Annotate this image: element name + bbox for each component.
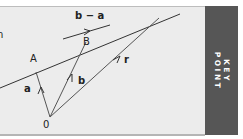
- key-point-strip: KEY POINT: [205, 6, 238, 135]
- label-vector-b: b: [78, 76, 85, 86]
- key-point-label: KEY POINT: [213, 51, 231, 90]
- line-through-a-b: [0, 14, 180, 88]
- label-origin: 0: [43, 120, 49, 130]
- vector-a-arrowhead-icon: [38, 87, 44, 94]
- label-point-b: B: [83, 37, 90, 47]
- vector-r-line: [50, 18, 159, 117]
- cut-off-text: n: [0, 30, 3, 40]
- label-b-minus-a: b − a: [75, 11, 104, 21]
- key-point-line2: POINT: [213, 51, 222, 90]
- label-point-a: A: [30, 54, 37, 64]
- label-vector-a: a: [24, 84, 31, 94]
- vector-a-line: [36, 72, 50, 117]
- key-point-line1: KEY: [222, 51, 231, 90]
- label-vector-r: r: [124, 55, 129, 65]
